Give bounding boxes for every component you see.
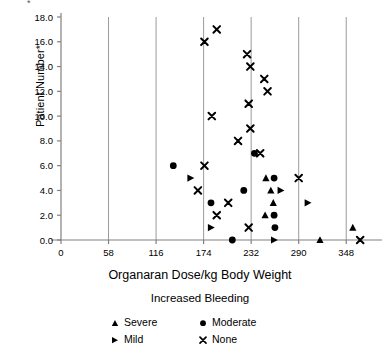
data-point-moderate xyxy=(240,187,247,194)
y-axis-title: Patient Number* xyxy=(34,6,46,166)
data-point-moderate xyxy=(208,199,215,206)
data-point-severe xyxy=(261,211,268,218)
data-point-mild xyxy=(305,199,312,206)
x-axis-tick-label: 174 xyxy=(196,247,212,258)
scatter-plot-canvas: 0.02.04.06.08.010.012.014.016.018.005811… xyxy=(0,0,384,260)
data-point-none xyxy=(247,125,254,132)
triangle-up-icon xyxy=(110,318,120,328)
x-axis-tick-label: 232 xyxy=(243,247,259,258)
legend-label-moderate: Moderate xyxy=(212,317,256,328)
data-point-severe xyxy=(349,224,356,231)
data-point-severe xyxy=(262,174,269,181)
legend-title: Increased Bleeding xyxy=(40,292,360,304)
x-axis-tick-label: 290 xyxy=(291,247,307,258)
legend-item-severe: Severe xyxy=(110,314,198,331)
x-axis-title: Organaran Dose/kg Body Weight xyxy=(40,268,360,282)
data-point-none xyxy=(264,88,271,95)
legend-label-none: None xyxy=(212,334,237,345)
data-point-mild xyxy=(208,224,215,231)
data-point-moderate xyxy=(271,175,278,182)
legend-item-moderate: Moderate xyxy=(198,314,290,331)
plot-area: * 0.02.04.06.08.010.012.014.016.018.0058… xyxy=(0,0,384,260)
data-point-mild xyxy=(271,236,278,243)
data-point-none xyxy=(195,187,202,194)
data-point-none xyxy=(209,113,216,120)
y-axis-tick-label: 4.0 xyxy=(40,185,53,196)
data-point-none xyxy=(244,51,251,58)
data-point-none xyxy=(261,76,268,83)
data-point-none xyxy=(213,212,220,219)
x-axis-tick-label: 0 xyxy=(58,247,63,258)
y-axis-tick-label: 0.0 xyxy=(40,235,53,246)
data-point-moderate xyxy=(271,212,278,219)
data-point-none xyxy=(201,162,208,169)
data-point-none xyxy=(201,38,208,45)
legend: Severe Moderate Mild None xyxy=(110,314,290,348)
data-point-mild xyxy=(278,187,285,194)
x-axis-tick-label: 348 xyxy=(338,247,354,258)
x-axis-tick-label: 116 xyxy=(148,247,163,258)
data-point-none xyxy=(225,200,232,207)
data-point-severe xyxy=(267,187,274,194)
data-point-moderate xyxy=(272,224,279,231)
triangle-right-icon xyxy=(110,335,120,345)
x-axis-tick-label: 58 xyxy=(103,247,114,258)
x-mark-icon xyxy=(198,335,208,345)
circle-icon xyxy=(198,318,208,328)
data-point-moderate xyxy=(170,162,177,169)
data-point-mild xyxy=(187,174,194,181)
data-point-moderate xyxy=(229,237,236,244)
y-axis-tick-label: 2.0 xyxy=(40,210,53,221)
data-point-none xyxy=(247,63,254,70)
legend-item-none: None xyxy=(198,331,290,348)
legend-label-mild: Mild xyxy=(124,334,143,345)
chart-figure: * 0.02.04.06.08.010.012.014.016.018.0058… xyxy=(0,0,384,351)
data-point-none xyxy=(235,138,242,145)
legend-label-severe: Severe xyxy=(124,317,157,328)
data-point-none xyxy=(213,26,220,33)
data-point-severe xyxy=(270,199,277,206)
data-point-none xyxy=(257,150,264,157)
legend-item-mild: Mild xyxy=(110,331,198,348)
